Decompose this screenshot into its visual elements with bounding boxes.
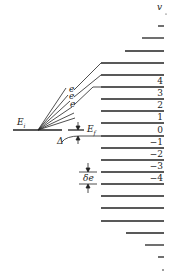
axis-label: v xyxy=(157,3,162,12)
final-level-label: Ef xyxy=(87,125,96,137)
level-number: 0 xyxy=(157,126,163,135)
level-number: 2 xyxy=(157,101,163,110)
level-number: −4 xyxy=(150,174,163,183)
level-number: 1 xyxy=(157,113,163,122)
level-number: −2 xyxy=(150,150,163,159)
fan-label: e xyxy=(70,100,75,109)
level-number: 4 xyxy=(157,77,163,86)
level-number: −3 xyxy=(150,162,163,171)
level-number: −1 xyxy=(150,138,163,147)
level-number: 3 xyxy=(157,89,163,98)
delta-label: Δ xyxy=(57,137,64,146)
spacing-label: δe xyxy=(83,174,94,183)
initial-level-label: Ei xyxy=(17,118,26,130)
